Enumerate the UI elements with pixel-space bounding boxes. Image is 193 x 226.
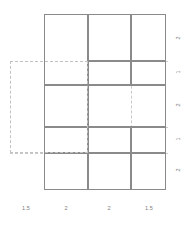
packing-cell[interactable] [131, 153, 166, 190]
diagram-canvas: 1.5221.5 21212 [0, 0, 193, 226]
packing-cell[interactable] [88, 85, 166, 127]
packing-cell[interactable] [44, 153, 88, 190]
selection-rectangle[interactable] [10, 61, 88, 153]
x-axis-tick-label: 1.5 [14, 205, 38, 211]
y-axis-tick-label: 2 [175, 26, 181, 50]
packing-cell[interactable] [131, 127, 166, 153]
x-axis-tick-label: 1.5 [137, 205, 161, 211]
x-axis-tick-label: 2 [97, 205, 121, 211]
packing-cell[interactable] [88, 153, 131, 190]
packing-cell[interactable] [88, 14, 131, 61]
y-axis-tick-label: 1 [175, 127, 181, 151]
x-axis-tick-label: 2 [54, 205, 78, 211]
packing-cell[interactable] [131, 14, 166, 61]
packing-cell[interactable] [131, 61, 166, 85]
y-axis-tick-label: 2 [175, 158, 181, 182]
packing-cell[interactable] [88, 61, 131, 85]
packing-cell[interactable] [88, 127, 131, 153]
y-axis-tick-label: 1 [175, 60, 181, 84]
y-axis-tick-label: 2 [175, 93, 181, 117]
